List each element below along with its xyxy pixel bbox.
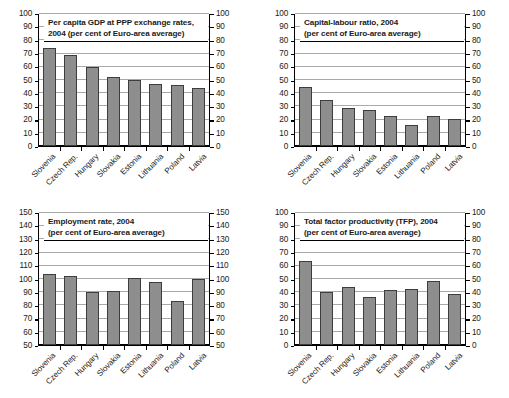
y-tick-label: 90 (279, 222, 288, 230)
bar-slovakia (107, 77, 120, 146)
y-tick-label: 60 (216, 63, 225, 71)
y-tick-mark (210, 213, 214, 214)
y-tick-label: 110 (20, 262, 32, 270)
y-tick-label: 10 (472, 329, 481, 337)
y-tick-label: 90 (216, 289, 225, 297)
y-tick-mark (210, 14, 214, 15)
y-axis-labels-right: 0102030405060708090100 (466, 14, 496, 147)
y-tick-mark (35, 293, 39, 294)
y-tick-label: 80 (216, 302, 225, 310)
bar-hungary (342, 287, 355, 345)
y-tick-label: 20 (279, 116, 288, 124)
bar-latvia (192, 279, 205, 345)
y-tick-label: 70 (216, 50, 225, 58)
y-tick-label: 130 (216, 236, 229, 244)
y-tick-mark (466, 319, 470, 320)
y-tick-label: 40 (279, 90, 288, 98)
y-tick-label: 50 (472, 77, 481, 85)
y-tick-mark (35, 306, 39, 307)
y-tick-label: 70 (23, 315, 32, 323)
bar-czech-rep (64, 276, 77, 345)
chart-panel-capital-labour-ratio: 0102030405060708090100010203040506070809… (254, 0, 509, 199)
y-tick-mark (35, 54, 39, 55)
y-tick-label: 140 (216, 222, 229, 230)
y-tick-mark (35, 253, 39, 254)
bar-estonia (128, 278, 141, 345)
y-tick-mark (210, 306, 214, 307)
chart-title: Per capita GDP at PPP exchange rates,200… (44, 16, 208, 42)
y-tick-label: 80 (472, 37, 481, 45)
y-axis-labels-right: 5060708090100110120130140150 (210, 213, 240, 346)
y-tick-label: 120 (216, 249, 229, 257)
bar-estonia (384, 116, 397, 146)
y-tick-label: 70 (472, 50, 481, 58)
y-tick-label: 50 (23, 342, 32, 350)
y-tick-mark (210, 226, 214, 227)
bar-slovenia (43, 274, 56, 345)
chart-title: Total factor productivity (TFP), 2004(pe… (300, 215, 464, 241)
y-tick-mark (210, 319, 214, 320)
y-tick-mark (291, 54, 295, 55)
y-tick-mark (291, 319, 295, 320)
x-label-latvia: Latvia (443, 351, 464, 372)
bar-poland (171, 85, 184, 146)
y-tick-mark (35, 27, 39, 28)
y-tick-mark (291, 226, 295, 227)
y-tick-mark (466, 240, 470, 241)
y-tick-label: 50 (279, 77, 288, 85)
y-tick-label: 70 (23, 50, 32, 58)
chart-panel-employment-rate: 5060708090100110120130140150506070809010… (0, 199, 254, 398)
y-tick-label: 100 (472, 209, 485, 217)
chart-panel-per-capita-gdp: 0102030405060708090100010203040506070809… (0, 0, 254, 199)
bar-hungary (86, 292, 99, 345)
y-tick-mark (210, 27, 214, 28)
y-tick-label: 90 (216, 23, 225, 31)
y-tick-label: 40 (279, 289, 288, 297)
y-tick-label: 20 (216, 116, 225, 124)
y-tick-label: 120 (19, 249, 32, 257)
y-tick-label: 140 (19, 222, 32, 230)
y-tick-mark (291, 306, 295, 307)
y-tick-mark (291, 134, 295, 135)
y-tick-mark (291, 67, 295, 68)
y-tick-mark (210, 240, 214, 241)
y-tick-mark (210, 266, 214, 267)
y-tick-mark (466, 54, 470, 55)
y-tick-mark (210, 280, 214, 281)
chart-title-line: (per cent of Euro-area average) (304, 29, 461, 40)
y-tick-mark (210, 134, 214, 135)
y-tick-mark (35, 319, 39, 320)
y-tick-mark (210, 81, 214, 82)
y-tick-mark (466, 67, 470, 68)
y-tick-label: 20 (472, 315, 481, 323)
bar-czech-rep (64, 55, 77, 146)
bar-slovakia (107, 291, 120, 345)
y-tick-mark (35, 107, 39, 108)
y-tick-label: 80 (279, 37, 288, 45)
y-tick-mark (466, 213, 470, 214)
y-tick-label: 100 (275, 209, 288, 217)
y-tick-mark (291, 81, 295, 82)
y-tick-mark (466, 107, 470, 108)
y-tick-label: 30 (472, 302, 481, 310)
y-tick-mark (210, 107, 214, 108)
bar-hungary (342, 108, 355, 146)
y-tick-mark (291, 266, 295, 267)
plot-area: 5060708090100110120130140150506070809010… (38, 213, 210, 346)
y-axis-labels-right: 0102030405060708090100 (466, 213, 496, 346)
plot-area: 0102030405060708090100010203040506070809… (38, 14, 210, 147)
y-tick-mark (35, 67, 39, 68)
y-tick-mark (291, 107, 295, 108)
y-tick-mark (466, 266, 470, 267)
y-tick-mark (291, 333, 295, 334)
y-tick-label: 90 (472, 23, 481, 31)
plot-area: 0102030405060708090100010203040506070809… (294, 14, 466, 147)
y-tick-mark (210, 67, 214, 68)
y-tick-label: 150 (19, 209, 32, 217)
y-tick-label: 90 (23, 289, 32, 297)
y-tick-label: 10 (23, 130, 32, 138)
y-tick-label: 10 (279, 329, 288, 337)
y-tick-label: 150 (216, 209, 229, 217)
y-tick-mark (35, 41, 39, 42)
y-tick-mark (35, 213, 39, 214)
